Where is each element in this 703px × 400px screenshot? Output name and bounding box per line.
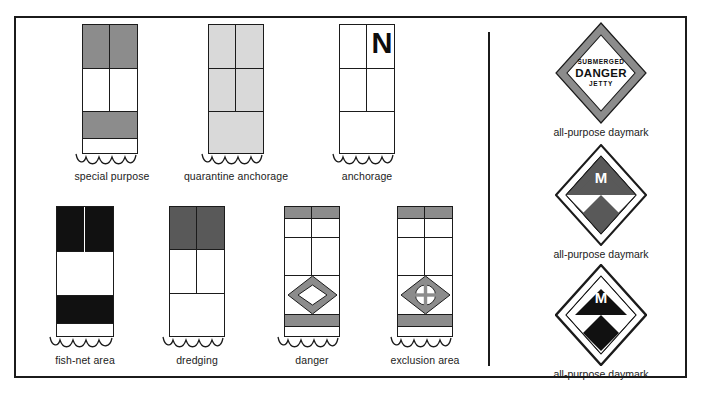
figure-frame: special purpose quarantine anchorage N [14, 16, 687, 378]
daymark-submerged-danger-jetty[interactable]: SUBMERGED DANGER JETTY all-purpose dayma… [526, 22, 676, 144]
buoy-caption: special purpose [52, 170, 172, 182]
daymark-diamond [555, 144, 647, 246]
buoy-segment-top [57, 207, 113, 251]
buoy-letter: N [370, 29, 394, 58]
buoy-segment-lower-band [285, 314, 339, 326]
daymark-letter: M [555, 170, 647, 185]
figure-page: special purpose quarantine anchorage N [0, 0, 703, 400]
buoy-segment-top [170, 207, 224, 249]
daymark-text-line3: JETTY [555, 81, 647, 88]
water-line [74, 152, 148, 168]
daymark-letter: M [555, 290, 647, 305]
buoy-caption: dredging [142, 354, 252, 366]
daymark-caption: all-purpose daymark [526, 248, 676, 260]
water-line [331, 152, 405, 168]
buoy-segment-top-band [398, 207, 452, 218]
buoy-segment-top-band [285, 207, 339, 218]
water-line [389, 335, 463, 351]
daymark-text-line2: DANGER [555, 67, 647, 79]
buoy-segment-band [57, 295, 113, 323]
buoy-caption: fish-net area [28, 354, 142, 366]
buoy-caption: danger [256, 354, 368, 366]
water-line [48, 335, 124, 351]
buoy-segment-lower-band [398, 314, 452, 326]
buoy-caption: quarantine anchorage [166, 170, 306, 182]
daymark-diamond [555, 264, 647, 366]
daymark-caption: all-purpose daymark [526, 368, 676, 380]
water-line [276, 335, 350, 351]
water-line [161, 335, 235, 351]
filled-diamond-cross-symbol [399, 275, 452, 315]
daymark-gray-m[interactable]: M all-purpose daymark [526, 144, 676, 264]
daymark-black-m[interactable]: M all-purpose daymark [526, 264, 676, 384]
water-line [200, 152, 274, 168]
buoy-caption: exclusion area [366, 354, 484, 366]
open-diamond-symbol [286, 275, 339, 315]
buoy-segment-band [83, 111, 137, 138]
buoy-caption: anchorage [312, 170, 422, 182]
buoy-segment-top [83, 25, 137, 68]
panel-divider [488, 32, 490, 366]
daymark-caption: all-purpose daymark [526, 126, 676, 138]
daymark-text-line1: SUBMERGED [555, 59, 647, 66]
